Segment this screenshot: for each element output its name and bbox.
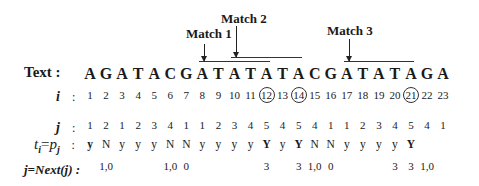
i-value-11: 11 — [243, 89, 259, 101]
i-value-21: 21 — [403, 87, 419, 103]
i-label: i — [56, 89, 60, 104]
match-flag-21: Y — [403, 138, 419, 150]
next-value-22: 1,0 — [419, 160, 435, 172]
next-label: j=Next(j) : — [24, 162, 80, 177]
text-char-22: G — [419, 65, 435, 83]
text-char-8: A — [194, 65, 210, 83]
t-p-colon: : — [71, 138, 74, 152]
text-row-label: Text : — [24, 64, 61, 81]
match-flag-20: y — [387, 138, 403, 150]
j-value-15: 4 — [307, 119, 323, 131]
i-value-10: 10 — [226, 89, 242, 101]
i-value-23: 23 — [435, 89, 451, 101]
i-value-16: 16 — [323, 89, 339, 101]
next-value-2: 1,0 — [98, 160, 114, 172]
match-1-arrow-icon — [204, 44, 205, 61]
j-value-4: 2 — [130, 119, 146, 131]
next-value-12: 3 — [259, 160, 275, 172]
j-value-13: 4 — [275, 119, 291, 131]
i-value-1: 1 — [82, 89, 98, 101]
match-3-arrow-icon — [349, 39, 350, 61]
i-value-14: 14 — [291, 87, 307, 103]
match-2-arrow-icon — [236, 26, 237, 57]
next-value-16: 0 — [323, 160, 339, 172]
text-char-20: T — [387, 65, 403, 83]
match-flag-1: y — [82, 138, 98, 150]
j-value-7: 1 — [178, 119, 194, 131]
i-row-label: i : — [56, 87, 75, 105]
text-char-16: G — [323, 65, 339, 83]
i-value-8: 8 — [194, 89, 210, 101]
match-flag-11: y — [243, 138, 259, 150]
text-char-19: A — [371, 65, 387, 83]
match-flag-7: N — [178, 138, 194, 150]
i-value-22: 22 — [419, 89, 435, 101]
match-flag-19: y — [371, 138, 387, 150]
j-value-17: 1 — [339, 119, 355, 131]
j-colon: : — [72, 121, 75, 135]
match-flag-4: y — [130, 138, 146, 150]
text-char-23: A — [435, 65, 451, 83]
i-value-2: 2 — [98, 89, 114, 101]
j-value-18: 2 — [355, 119, 371, 131]
text-char-2: G — [98, 65, 114, 83]
j-value-6: 4 — [162, 119, 178, 131]
i-value-4: 4 — [130, 89, 146, 101]
i-value-9: 9 — [210, 89, 226, 101]
j-value-19: 3 — [371, 119, 387, 131]
j-value-5: 3 — [146, 119, 162, 131]
j-value-10: 3 — [226, 119, 242, 131]
match-flag-10: y — [226, 138, 242, 150]
j-label: j — [56, 120, 60, 135]
i-value-6: 6 — [162, 89, 178, 101]
match-flag-15: N — [307, 138, 323, 150]
next-value-14: 3 — [291, 160, 307, 172]
j-value-16: 1 — [323, 119, 339, 131]
match-flag-3: y — [114, 138, 130, 150]
i-value-12: 12 — [259, 87, 275, 103]
match-flag-5: y — [146, 138, 162, 150]
j-value-1: 1 — [82, 119, 98, 131]
j-value-20: 4 — [387, 119, 403, 131]
j-value-9: 2 — [210, 119, 226, 131]
p-symbol: p — [49, 136, 57, 152]
text-char-10: A — [226, 65, 242, 83]
j-value-12: 5 — [259, 119, 275, 131]
next-value-6: 1,0 — [162, 160, 178, 172]
i-value-17: 17 — [339, 89, 355, 101]
next-value-15: 1,0 — [307, 160, 323, 172]
match-flag-14: Y — [291, 138, 307, 150]
match-flag-8: y — [194, 138, 210, 150]
match-flag-6: N — [162, 138, 178, 150]
j-subscript: j — [57, 144, 60, 155]
text-char-4: T — [130, 65, 146, 83]
text-char-3: A — [114, 65, 130, 83]
j-value-21: 5 — [403, 119, 419, 131]
match-flag-9: y — [210, 138, 226, 150]
text-char-9: T — [210, 65, 226, 83]
next-value-21: 3 — [403, 160, 419, 172]
match-1-label: Match 1 — [186, 26, 232, 42]
text-char-1: A — [82, 65, 98, 83]
match-2-label: Match 2 — [221, 11, 267, 27]
text-char-5: A — [146, 65, 162, 83]
i-value-20: 20 — [387, 89, 403, 101]
text-char-7: G — [178, 65, 194, 83]
text-char-21: A — [403, 65, 419, 83]
match-flag-2: N — [98, 138, 114, 150]
match-2-span-line — [231, 57, 301, 58]
t-equals-p-row-label: ti=pj : — [34, 136, 75, 155]
match-flag-18: y — [355, 138, 371, 150]
next-value-7: 0 — [178, 160, 194, 172]
text-char-12: A — [259, 65, 275, 83]
text-char-15: C — [307, 65, 323, 83]
text-char-11: T — [243, 65, 259, 83]
i-value-15: 15 — [307, 89, 323, 101]
text-char-17: A — [339, 65, 355, 83]
j-value-22: 4 — [419, 119, 435, 131]
i-value-3: 3 — [114, 89, 130, 101]
i-value-19: 19 — [371, 89, 387, 101]
match-flag-16: N — [323, 138, 339, 150]
next-row-label: j=Next(j) : — [24, 160, 80, 178]
j-row-label: j : — [56, 118, 75, 136]
